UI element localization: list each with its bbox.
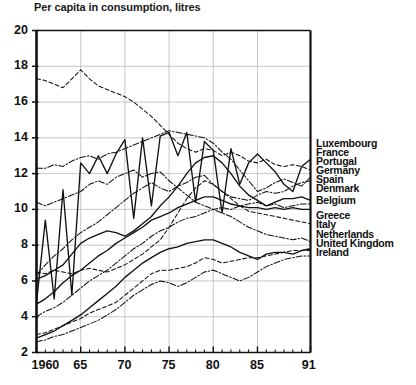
y-tick-label: 16 (2, 94, 28, 108)
x-tick-label: 70 (117, 358, 131, 372)
series-line-netherlands (37, 240, 311, 338)
legend-item-ireland[interactable]: Ireland (316, 247, 349, 258)
x-tick-label: 75 (162, 358, 176, 372)
x-tick-label: 80 (206, 358, 220, 372)
y-tick-label: 2 (2, 345, 28, 359)
chart-figure: Per capita in consumption, litres 246810… (0, 0, 416, 385)
legend-item-denmark[interactable]: Denmark (316, 183, 359, 194)
series-line-france (37, 70, 311, 170)
y-tick-label: 12 (2, 166, 28, 180)
y-tick-label: 6 (2, 273, 28, 287)
y-tick-label: 20 (2, 23, 28, 37)
y-tick-label: 10 (2, 201, 28, 215)
series-line-ireland (37, 256, 311, 342)
x-tick-label: 65 (73, 358, 87, 372)
y-tick-label: 8 (2, 237, 28, 251)
data-series-group (37, 70, 311, 342)
series-line-germany (37, 175, 311, 275)
series-line-luxembourg (37, 132, 311, 302)
y-tick-label: 14 (2, 130, 28, 144)
x-tick-label: 91 (302, 358, 316, 372)
legend-item-belgium[interactable]: Belgium (316, 195, 356, 206)
y-tick-label: 4 (2, 309, 28, 323)
series-line-greece (37, 181, 311, 274)
x-tick-label: 1960 (32, 358, 60, 372)
series-line-united-kingdom (37, 251, 311, 335)
y-tick-label: 18 (2, 58, 28, 72)
axis-ticks (32, 31, 311, 353)
x-tick-label: 85 (250, 358, 264, 372)
